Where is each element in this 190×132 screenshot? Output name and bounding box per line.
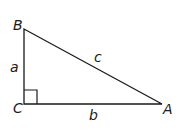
vertex-label-c: C bbox=[13, 100, 23, 116]
triangle-outline bbox=[24, 29, 162, 104]
side-label-b: b bbox=[89, 107, 98, 123]
side-label-a: a bbox=[10, 59, 19, 75]
vertex-label-b: B bbox=[13, 17, 23, 33]
right-angle-marker bbox=[24, 90, 37, 104]
right-triangle-diagram: B C A a b c bbox=[0, 0, 190, 132]
side-label-c: c bbox=[94, 49, 102, 65]
vertex-label-a: A bbox=[162, 101, 173, 117]
